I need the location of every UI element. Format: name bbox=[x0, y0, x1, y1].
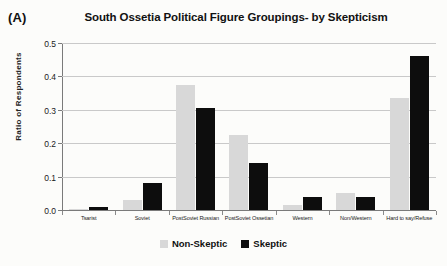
x-tick-mark bbox=[62, 211, 63, 215]
x-tick-label: Western bbox=[292, 215, 312, 221]
x-tick-mark bbox=[222, 211, 223, 215]
y-tick-label: 0.1 bbox=[22, 173, 56, 183]
bar-group bbox=[115, 44, 168, 210]
y-tick-label: 0.4 bbox=[22, 72, 56, 82]
bar-non-skeptic bbox=[390, 98, 409, 210]
x-tick-label: PostSoviet Russian bbox=[172, 215, 219, 221]
bar-group bbox=[222, 44, 275, 210]
x-tick-label: Hard to say/Refuse bbox=[386, 215, 432, 221]
bar-non-skeptic bbox=[283, 205, 302, 210]
x-tick-label: Non/Western bbox=[340, 215, 371, 221]
x-tick-mark bbox=[383, 211, 384, 215]
legend-label: Skeptic bbox=[253, 238, 287, 249]
chart-title: South Ossetia Political Figure Groupings… bbox=[46, 11, 426, 23]
x-tick-mark bbox=[115, 211, 116, 215]
bar-non-skeptic bbox=[69, 209, 88, 210]
x-tick-mark bbox=[169, 211, 170, 215]
bar-skeptic bbox=[303, 197, 322, 210]
plot-area bbox=[62, 44, 436, 211]
x-tick-label: Soviet bbox=[135, 215, 150, 221]
x-tick-mark bbox=[329, 211, 330, 215]
chart-legend: Non-SkepticSkeptic bbox=[0, 238, 447, 249]
x-axis-line bbox=[62, 210, 436, 211]
y-tick-label: 0.3 bbox=[22, 106, 56, 116]
legend-item-skeptic[interactable]: Skeptic bbox=[241, 238, 287, 249]
bar-group bbox=[62, 44, 115, 210]
bar-skeptic bbox=[196, 108, 215, 210]
y-tick-label: 0.2 bbox=[22, 139, 56, 149]
x-tick-label: Tsarist bbox=[81, 215, 96, 221]
y-tick-label: 0.5 bbox=[22, 39, 56, 49]
x-tick-mark bbox=[276, 211, 277, 215]
bar-group bbox=[276, 44, 329, 210]
panel-label: (A) bbox=[8, 10, 27, 25]
legend-label: Non-Skeptic bbox=[172, 238, 227, 249]
x-tick-label: PostSoviet Ossetian bbox=[225, 215, 273, 221]
bar-group bbox=[169, 44, 222, 210]
bar-non-skeptic bbox=[336, 193, 355, 210]
bar-non-skeptic bbox=[123, 200, 142, 210]
bar-skeptic bbox=[143, 183, 162, 210]
figure-panel: (A) South Ossetia Political Figure Group… bbox=[0, 0, 447, 266]
y-tick-label: 0.0 bbox=[22, 206, 56, 216]
bar-non-skeptic bbox=[229, 135, 248, 210]
bar-skeptic bbox=[249, 163, 268, 210]
bar-skeptic bbox=[410, 56, 429, 210]
x-tick-mark bbox=[436, 211, 437, 215]
bar-skeptic bbox=[356, 197, 375, 210]
bar-skeptic bbox=[89, 207, 108, 210]
bar-non-skeptic bbox=[176, 85, 195, 210]
bar-group bbox=[383, 44, 436, 210]
legend-swatch-icon bbox=[241, 240, 249, 248]
legend-swatch-icon bbox=[160, 240, 168, 248]
bar-group bbox=[329, 44, 382, 210]
legend-item-non-skeptic[interactable]: Non-Skeptic bbox=[160, 238, 227, 249]
